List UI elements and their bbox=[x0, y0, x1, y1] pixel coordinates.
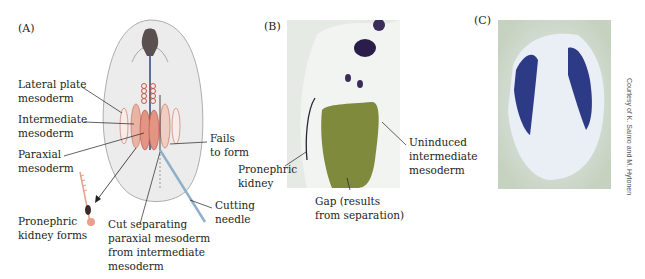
panel-c-photo bbox=[498, 20, 611, 189]
label-uninduced-intermediate-mesoderm: Uninduced intermediate mesoderm bbox=[409, 135, 478, 177]
photo-credit: Courtesy of K. Sainio and M. Hytonen bbox=[626, 78, 633, 195]
panel-c-image bbox=[498, 20, 611, 189]
label-pronephric-kidney: Pronephric kidney bbox=[238, 162, 297, 190]
label-gap: Gap (results from separation) bbox=[315, 194, 404, 222]
